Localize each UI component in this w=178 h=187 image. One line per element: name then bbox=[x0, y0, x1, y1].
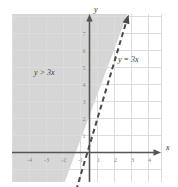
y-tick-label: 6 bbox=[82, 47, 85, 54]
x-tick-label: -1 bbox=[78, 156, 83, 163]
x-tick-label: -4 bbox=[27, 156, 32, 163]
graph-canvas: -4 -3 -2 -1 1 2 3 4 1 2 3 4 5 6 7 y x y … bbox=[0, 0, 178, 187]
y-axis-label: y bbox=[93, 5, 98, 14]
y-tick-label: 4 bbox=[82, 81, 85, 88]
x-tick-label: 3 bbox=[131, 156, 134, 163]
inequality-label: y > 3x bbox=[33, 68, 55, 77]
y-tick-label: 3 bbox=[82, 98, 85, 105]
y-tick-label: 7 bbox=[82, 30, 85, 37]
line-equation-label: y = 3x bbox=[117, 55, 139, 64]
x-tick-label: 1 bbox=[97, 156, 100, 163]
x-tick-label: -3 bbox=[44, 156, 49, 163]
x-tick-label: -2 bbox=[61, 156, 66, 163]
y-tick-label: 5 bbox=[82, 64, 85, 71]
inequality-graph-figure: -4 -3 -2 -1 1 2 3 4 1 2 3 4 5 6 7 y x y … bbox=[0, 0, 178, 187]
x-tick-label: 2 bbox=[114, 156, 117, 163]
x-tick-label: 4 bbox=[148, 156, 151, 163]
x-axis-label: x bbox=[165, 143, 170, 152]
y-tick-label: 1 bbox=[82, 132, 85, 139]
y-tick-label: 2 bbox=[82, 115, 85, 122]
